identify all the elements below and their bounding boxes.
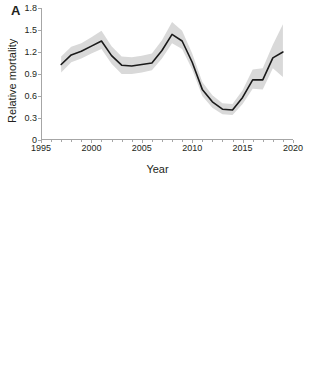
x-tick-mark-minor — [182, 140, 183, 142]
y-tick-label: 0.6 — [7, 91, 37, 101]
x-tick-label: 2015 — [223, 143, 263, 153]
panel-a-relative-mortality: A Relative mortality Year 00.30.60.91.21… — [0, 0, 315, 182]
x-tick-label: 2010 — [172, 143, 212, 153]
x-tick-mark-minor — [162, 140, 163, 142]
x-tick-mark-minor — [233, 140, 234, 142]
x-tick-mark-minor — [222, 140, 223, 142]
x-tick-mark-minor — [263, 140, 264, 142]
x-tick-mark-minor — [71, 140, 72, 142]
panel-a-x-axis-label: Year — [0, 163, 315, 175]
x-tick-mark-minor — [172, 140, 173, 142]
x-tick-mark-minor — [101, 140, 102, 142]
x-tick-mark-minor — [132, 140, 133, 142]
panel-a-line-chart — [41, 8, 293, 140]
y-tick-mark — [38, 118, 41, 119]
x-tick-mark-minor — [283, 140, 284, 142]
x-tick-mark-minor — [122, 140, 123, 142]
x-tick-mark-minor — [253, 140, 254, 142]
x-tick-label: 1995 — [21, 143, 61, 153]
y-tick-mark — [38, 8, 41, 9]
x-tick-mark-minor — [81, 140, 82, 142]
y-tick-mark — [38, 96, 41, 97]
x-tick-mark-minor — [51, 140, 52, 142]
x-tick-mark-minor — [152, 140, 153, 142]
y-tick-label: 1.8 — [7, 3, 37, 13]
panel-a-plot-area: 00.30.60.91.21.51.8 19952000200520102015… — [41, 8, 293, 140]
x-tick-mark-minor — [212, 140, 213, 142]
panel-b-catch: B Thousands Catch (tonnes) Year 02468101… — [0, 182, 315, 368]
y-tick-label: 1.2 — [7, 47, 37, 57]
y-tick-label: 0.3 — [7, 113, 37, 123]
y-tick-mark — [38, 52, 41, 53]
x-tick-label: 2020 — [273, 143, 313, 153]
x-tick-mark-minor — [202, 140, 203, 142]
x-tick-label: 2000 — [71, 143, 111, 153]
y-tick-label: 1.5 — [7, 25, 37, 35]
x-tick-mark-minor — [273, 140, 274, 142]
y-tick-mark — [38, 74, 41, 75]
x-tick-label: 2005 — [122, 143, 162, 153]
y-tick-mark — [38, 30, 41, 31]
x-tick-mark-minor — [61, 140, 62, 142]
y-tick-label: 0.9 — [7, 69, 37, 79]
x-tick-mark-minor — [112, 140, 113, 142]
